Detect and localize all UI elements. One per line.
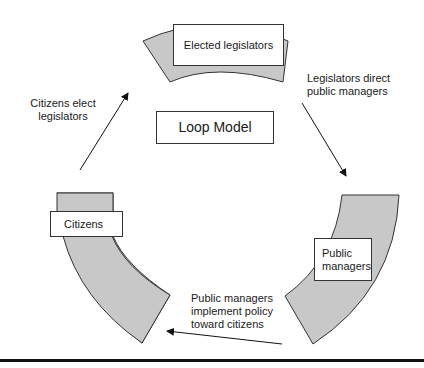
managers-label: Public managers bbox=[322, 247, 366, 273]
legislators-label: Elected legislators bbox=[184, 39, 273, 52]
edge-label-line: Public managers bbox=[191, 292, 291, 305]
arrow-managers-to-citizens bbox=[167, 331, 282, 344]
edge-label-legislators-direct: Legislators direct public managers bbox=[307, 72, 417, 98]
managers-node: Public managers bbox=[314, 238, 372, 281]
edge-label-line: legislators bbox=[30, 110, 96, 123]
edge-label-line: Citizens elect bbox=[30, 97, 96, 110]
diagram-title-box: Loop Model bbox=[156, 111, 274, 144]
edge-label-line: Legislators direct bbox=[307, 72, 417, 85]
arrow-legislators-to-managers bbox=[302, 103, 346, 176]
diagram-title: Loop Model bbox=[178, 121, 251, 134]
citizens-band-top bbox=[57, 193, 113, 213]
citizens-label: Citizens bbox=[64, 218, 103, 231]
edge-label-citizens-elect: Citizens elect legislators bbox=[30, 97, 96, 123]
edge-label-line: public managers bbox=[307, 85, 417, 98]
edge-label-line: implement policy bbox=[191, 305, 291, 318]
citizens-band-body bbox=[63, 236, 170, 343]
citizens-node: Citizens bbox=[50, 211, 123, 237]
legislators-node: Elected legislators bbox=[173, 24, 284, 66]
edge-label-managers-implement: Public managers implement policy toward … bbox=[191, 292, 291, 331]
edge-label-line: toward citizens bbox=[191, 318, 291, 331]
bottom-rule-divider bbox=[0, 359, 424, 362]
